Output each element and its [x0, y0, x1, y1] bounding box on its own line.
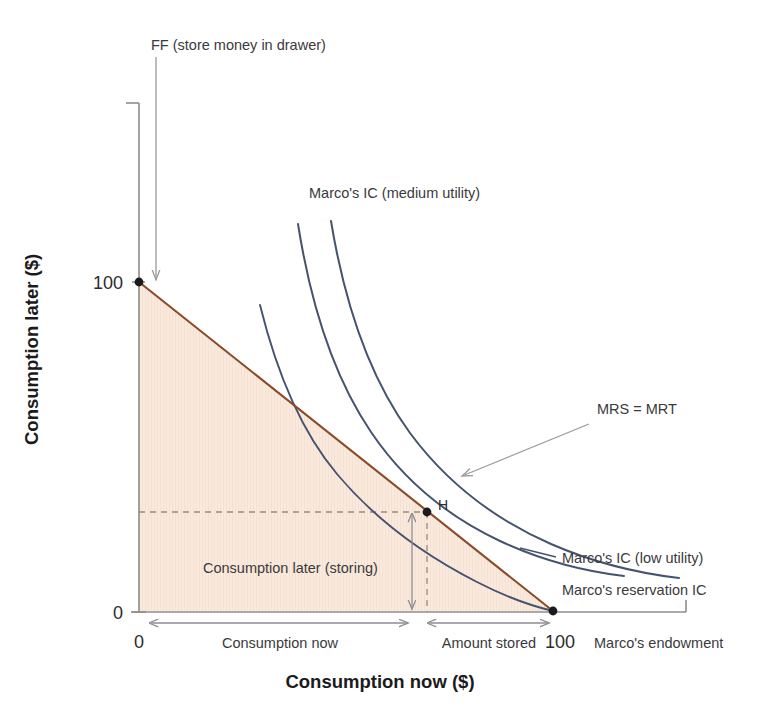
- x-axis-title: Consumption now ($): [285, 671, 474, 692]
- point-max-later: [135, 278, 144, 287]
- figure-container: Consumption later ($) Consumption now ($…: [0, 0, 773, 713]
- y-tick-label-0: 0: [113, 603, 123, 623]
- y-axis-title: Consumption later ($): [21, 254, 42, 445]
- economics-indifference-curve-chart: Consumption later ($) Consumption now ($…: [0, 0, 773, 713]
- mrs-mrt-annotation-arrow: [462, 424, 589, 476]
- x-tick-label-0: 0: [134, 632, 144, 652]
- y-tick-label-100: 100: [93, 273, 123, 293]
- point-endowment: [549, 607, 558, 616]
- mrs-mrt-label: MRS = MRT: [597, 401, 677, 417]
- amount-stored-label: Amount stored: [442, 635, 536, 651]
- ic-medium-utility-label: Marco's IC (medium utility): [309, 185, 480, 201]
- reservation-ic-label: Marco's reservation IC: [562, 582, 707, 598]
- ic-low-utility-label: Marco's IC (low utility): [562, 550, 703, 566]
- point-h-tangency: [423, 508, 432, 517]
- point-h-label: H: [438, 497, 448, 513]
- ff-label: FF (store money in drawer): [151, 37, 326, 53]
- x-tick-label-100: 100: [545, 632, 575, 652]
- endowment-label: Marco's endowment: [594, 635, 723, 651]
- consumption-later-storing-label: Consumption later (storing): [203, 560, 378, 576]
- consumption-now-label: Consumption now: [222, 635, 339, 651]
